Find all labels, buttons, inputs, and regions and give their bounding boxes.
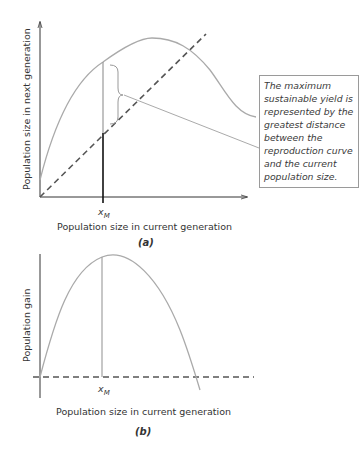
callout-line: represented by the: [264, 105, 358, 118]
callout-line: reproduction curve: [264, 144, 358, 157]
x-axis-label-a: Population size in current generation: [57, 221, 232, 232]
panel-a: xM Population size in current generation…: [21, 22, 259, 248]
panel-b: xM Population size in current generation…: [21, 254, 254, 437]
panel-label-a: (a): [138, 237, 154, 248]
x-axis-label-b: Population size in current generation: [56, 406, 231, 417]
tick-xm-a: xM: [97, 206, 110, 220]
panel-label-b: (b): [135, 426, 151, 437]
callout-line: sustainable yield is: [264, 92, 358, 105]
y-axis-label-a: Population size in next generation: [21, 28, 32, 190]
callout-line: The maximum: [264, 79, 358, 92]
callout-line: and the current: [264, 157, 358, 170]
callout-line: population size.: [264, 170, 358, 183]
callout-line: between the: [264, 131, 358, 144]
gain-curve: [40, 255, 200, 390]
replacement-line: [40, 34, 206, 197]
msy-callout: The maximum sustainable yield is represe…: [259, 75, 359, 188]
y-axis-label-b: Population gain: [21, 289, 32, 362]
brace-icon: [110, 65, 123, 124]
callout-leader: [124, 95, 259, 148]
callout-line: greatest distance: [264, 118, 358, 131]
reproduction-curve: [40, 38, 256, 180]
tick-xm-b: xM: [97, 383, 110, 397]
